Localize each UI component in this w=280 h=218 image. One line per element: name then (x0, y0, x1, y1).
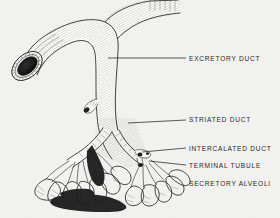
label-terminal-tubule: TERMINAL TUBULE (189, 162, 261, 169)
label-striated-duct: STRIATED DUCT (189, 116, 251, 123)
label-intercalated-duct: INTERCALATED DUCT (189, 145, 272, 152)
duct-system-illustration: EXCRETORY DUCT STRIATED DUCT INTERCALATE… (0, 0, 280, 218)
figure-canvas: EXCRETORY DUCT STRIATED DUCT INTERCALATE… (0, 0, 280, 218)
label-excretory-duct: EXCRETORY DUCT (189, 55, 260, 62)
label-secretory-alveoli: SECRETORY ALVEOLI (189, 180, 271, 187)
